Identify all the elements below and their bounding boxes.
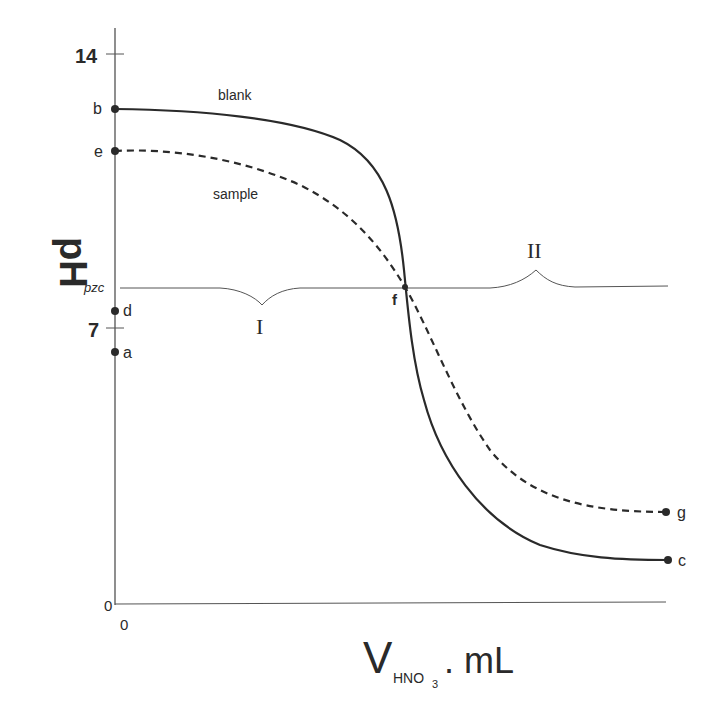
region-II-label: II: [527, 238, 542, 263]
x-axis-label-unit: . mL: [444, 640, 514, 681]
titration-chart: 14 7 0 0 pH pzc I II blank sample b e d …: [0, 0, 713, 713]
x-axis: [115, 602, 666, 604]
point-f: [402, 284, 408, 290]
y-tick-label-14: 14: [75, 45, 98, 67]
x-axis-label-sub3: 3: [432, 678, 438, 690]
point-b: [111, 105, 119, 113]
blank-curve: [115, 109, 668, 560]
point-e: [111, 147, 119, 155]
label-e: e: [94, 143, 103, 160]
point-g: [662, 508, 670, 516]
point-a: [111, 348, 119, 356]
label-d: d: [123, 302, 132, 319]
pzc-label: pzc: [83, 280, 105, 295]
x-axis-label-sub: HNO: [393, 670, 424, 686]
label-c: c: [678, 552, 686, 569]
x-axis-label-main: V: [363, 633, 393, 682]
label-f: f: [392, 291, 398, 308]
label-a: a: [123, 344, 132, 361]
label-g: g: [677, 504, 686, 521]
sample-curve: [115, 150, 666, 512]
sample-label: sample: [213, 186, 258, 202]
label-b: b: [93, 100, 102, 117]
x-tick-label-0: 0: [120, 616, 128, 633]
y-tick-label-7: 7: [88, 319, 99, 341]
point-c: [664, 556, 672, 564]
y-tick-label-0: 0: [104, 597, 112, 614]
region-I-label: I: [256, 314, 263, 339]
chart-svg: 14 7 0 0 pH pzc I II blank sample b e d …: [0, 0, 713, 713]
point-d: [111, 307, 119, 315]
blank-label: blank: [218, 87, 252, 103]
